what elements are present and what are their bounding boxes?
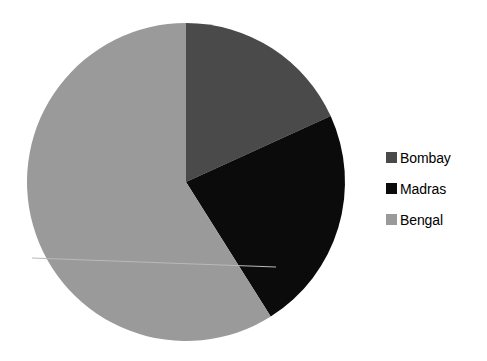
chart-legend: Bombay Madras Bengal xyxy=(386,142,486,235)
legend-swatch-icon xyxy=(386,183,397,194)
legend-swatch-icon xyxy=(386,152,397,163)
legend-swatch-icon xyxy=(386,214,397,225)
pie-slices xyxy=(27,23,345,341)
pie-chart: Bombay Madras Bengal xyxy=(0,0,487,361)
legend-item-bombay[interactable]: Bombay xyxy=(386,142,486,173)
legend-item-madras[interactable]: Madras xyxy=(386,173,486,204)
legend-label: Madras xyxy=(400,182,446,196)
legend-label: Bombay xyxy=(400,151,451,165)
legend-item-bengal[interactable]: Bengal xyxy=(386,204,486,235)
legend-label: Bengal xyxy=(400,213,443,227)
